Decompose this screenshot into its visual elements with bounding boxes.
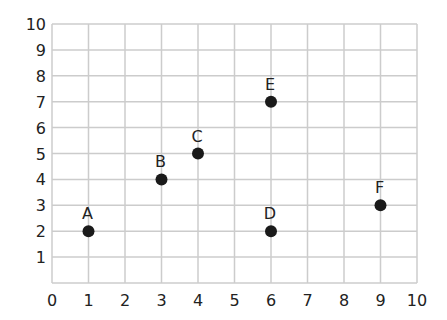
y-tick-label: 2: [36, 222, 46, 241]
y-tick-label: 5: [36, 145, 46, 164]
x-tick-label: 3: [156, 291, 166, 310]
data-point-a: A: [82, 204, 94, 237]
y-tick-label: 6: [36, 119, 46, 138]
y-tick-label: 10: [26, 15, 46, 34]
y-tick-label: 1: [36, 248, 46, 267]
data-point-b: B: [155, 152, 167, 185]
data-point-f: F: [375, 178, 387, 211]
data-point-c: C: [191, 127, 204, 160]
point-label: E: [265, 75, 275, 94]
x-tick-label: 4: [193, 291, 203, 310]
point-marker: [265, 225, 277, 237]
point-marker: [156, 173, 168, 185]
point-marker: [192, 148, 204, 160]
y-tick-label: 7: [36, 93, 46, 112]
x-tick-label: 6: [266, 291, 276, 310]
y-tick-label: 9: [36, 41, 46, 60]
x-tick-label: 7: [302, 291, 312, 310]
point-label: A: [82, 204, 93, 223]
scatter-chart: 012345678910 12345678910 ABCDEF: [0, 0, 447, 320]
x-tick-label: 9: [375, 291, 385, 310]
y-tick-label: 4: [36, 170, 46, 189]
point-marker: [265, 96, 277, 108]
x-axis-ticks: 012345678910: [47, 291, 427, 310]
point-label: B: [155, 152, 166, 171]
x-tick-label: 8: [339, 291, 349, 310]
data-point-e: E: [265, 75, 277, 108]
x-tick-label: 2: [120, 291, 130, 310]
grid-lines: [52, 24, 417, 283]
x-tick-label: 5: [229, 291, 239, 310]
x-tick-label: 1: [83, 291, 93, 310]
point-label: F: [375, 178, 384, 197]
y-tick-label: 8: [36, 67, 46, 86]
point-marker: [83, 225, 95, 237]
x-tick-label: 0: [47, 291, 57, 310]
data-point-d: D: [264, 204, 277, 237]
x-tick-label: 10: [407, 291, 427, 310]
point-label: C: [191, 127, 202, 146]
point-label: D: [264, 204, 276, 223]
point-marker: [375, 199, 387, 211]
y-axis-ticks: 12345678910: [26, 15, 46, 267]
y-tick-label: 3: [36, 196, 46, 215]
